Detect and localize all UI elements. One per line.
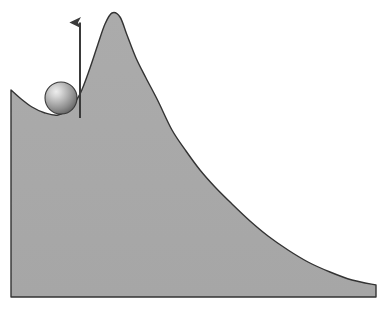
energy-landscape-diagram (0, 0, 385, 311)
ball-sphere (45, 82, 77, 114)
hill-area (11, 13, 376, 297)
figure-container: Ball resting in a local minimum beside a… (0, 0, 385, 311)
ball (45, 82, 77, 114)
energy-curve-filled-area (11, 13, 376, 297)
